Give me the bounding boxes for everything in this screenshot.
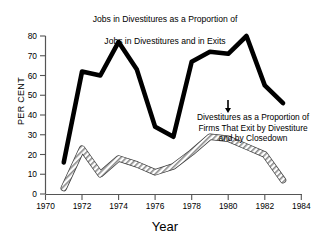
y-tick-labels: 80 70 60 50 40 30 20 10 0 <box>28 31 38 199</box>
x-tick-label: 1980 <box>219 201 238 211</box>
x-tick-marks <box>46 195 302 201</box>
annotation-line-2: Firms That Exit by Divestiture <box>178 123 328 134</box>
x-tick-label: 1970 <box>36 201 55 211</box>
y-tick-marks <box>40 36 46 194</box>
x-tick-label: 1984 <box>292 201 311 211</box>
x-tick-label: 1982 <box>255 201 274 211</box>
y-tick-label: 60 <box>28 71 38 81</box>
annotation-line-3: and by Closedown <box>178 133 328 144</box>
y-tick-label: 0 <box>32 189 37 199</box>
y-tick-label: 80 <box>28 31 38 41</box>
series-line-divestitures-share <box>64 137 283 188</box>
x-tick-label: 1978 <box>182 201 201 211</box>
x-tick-label: 1976 <box>146 201 165 211</box>
chart-figure: Jobs in Divestitures as a Proportion of … <box>0 0 330 245</box>
y-tick-label: 30 <box>28 130 38 140</box>
annotation-line-1: Divestitures as a Proportion of <box>178 112 328 123</box>
annotation-divestitures-share: Divestitures as a Proportion of Firms Th… <box>178 112 328 144</box>
x-axis-label: Year <box>0 219 330 234</box>
y-tick-label: 70 <box>28 51 38 61</box>
y-tick-label: 40 <box>28 110 38 120</box>
y-axis-label: PER CENT <box>16 61 26 141</box>
y-tick-label: 10 <box>28 169 38 179</box>
y-tick-label: 50 <box>28 90 38 100</box>
x-tick-labels: 1970 1972 1974 1976 1978 1980 1982 1984 <box>36 201 311 211</box>
x-tick-label: 1972 <box>73 201 92 211</box>
x-tick-label: 1974 <box>109 201 128 211</box>
y-tick-label: 20 <box>28 150 38 160</box>
